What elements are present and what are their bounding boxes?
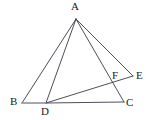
segment-ad [46,19,76,103]
vertex-label-f: F [112,70,118,81]
geometry-figure: ABCDEF [0,0,159,120]
vertex-label-b: B [10,96,17,107]
segment-ab [22,19,76,103]
segment-de [46,76,133,103]
geometry-canvas [0,0,159,120]
segment-dc [46,102,124,103]
vertex-label-d: D [41,106,49,117]
vertex-label-a: A [71,1,79,12]
segment-ac [76,19,124,102]
vertex-label-e: E [136,70,143,81]
segment-layer [22,19,133,103]
vertex-label-c: C [126,97,133,108]
